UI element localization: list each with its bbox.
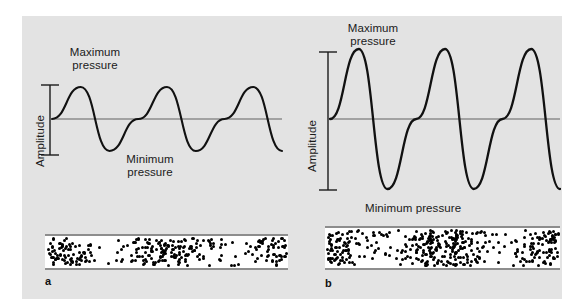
particle-dot <box>157 260 160 263</box>
particle-dot <box>264 237 267 240</box>
particle-dot <box>459 256 462 259</box>
particle-dot <box>531 237 534 240</box>
particle-dot <box>329 234 332 237</box>
particle-dot <box>386 235 389 238</box>
particle-dot <box>258 245 261 248</box>
particle-dot <box>545 239 548 242</box>
particle-dot <box>556 251 559 254</box>
particle-dot <box>552 230 555 233</box>
particle-dot <box>219 259 222 262</box>
particle-dot <box>449 253 452 256</box>
particle-dot <box>532 242 535 245</box>
particle-dot <box>281 245 284 248</box>
particle-dot <box>445 242 448 245</box>
panel-b-strip-bottom-rule <box>325 268 560 270</box>
particle-dot <box>150 247 153 250</box>
particle-dot <box>54 258 57 261</box>
particle-dot <box>208 264 211 267</box>
particle-dot <box>180 240 183 243</box>
particle-dot <box>443 255 446 258</box>
particle-dot <box>476 261 479 264</box>
particle-dot <box>144 251 147 254</box>
particle-dot <box>448 236 451 239</box>
particle-dot <box>265 259 268 262</box>
particle-dot <box>510 241 513 244</box>
particle-dot <box>389 246 392 249</box>
particle-dot <box>135 251 138 254</box>
particle-dot <box>396 249 399 252</box>
particle-dot <box>350 236 353 239</box>
particle-dot <box>503 245 506 248</box>
particle-dot <box>484 241 487 244</box>
particle-dot <box>150 257 153 260</box>
particle-dot <box>93 259 96 262</box>
particle-dot <box>551 235 554 238</box>
particle-dot <box>83 252 86 255</box>
particle-dot <box>162 253 165 256</box>
panel-b-amplitude-label: Amplitude <box>306 120 318 172</box>
particle-dot <box>515 240 518 243</box>
particle-dot <box>61 245 64 248</box>
particle-dot <box>366 239 369 242</box>
particle-dot <box>202 239 205 242</box>
particle-dot <box>411 262 414 265</box>
particle-dot <box>455 263 458 266</box>
particle-dot <box>537 242 540 245</box>
particle-dot <box>152 261 155 264</box>
particle-dot <box>415 251 418 254</box>
particle-dot <box>435 249 438 252</box>
particle-dot <box>556 255 559 258</box>
particle-dot <box>357 229 360 232</box>
particle-dot <box>445 245 448 248</box>
particle-dot <box>497 241 500 244</box>
particle-dot <box>557 233 560 236</box>
particle-dot <box>497 261 500 264</box>
particle-dot <box>404 235 407 238</box>
particle-dot <box>498 251 501 254</box>
particle-dot <box>190 247 193 250</box>
particle-dot <box>466 258 469 261</box>
particle-dot <box>455 251 458 254</box>
particle-dot <box>198 258 201 261</box>
particle-dot <box>90 254 93 257</box>
particle-dot <box>170 251 173 254</box>
particle-dot <box>186 264 189 267</box>
particle-dot <box>478 250 481 253</box>
particle-dot <box>421 254 424 257</box>
particle-dot <box>522 264 525 267</box>
particle-dot <box>450 229 453 232</box>
particle-dot <box>346 232 349 235</box>
particle-dot <box>454 258 457 261</box>
particle-dot <box>98 246 101 249</box>
particle-dot <box>155 248 158 251</box>
particle-dot <box>529 233 532 236</box>
particle-dot <box>430 246 433 249</box>
particle-dot <box>436 261 439 264</box>
particle-dot <box>120 248 123 251</box>
particle-dot <box>553 241 556 244</box>
particle-dot <box>399 263 402 266</box>
particle-dot <box>531 260 534 263</box>
particle-dot <box>284 244 287 247</box>
particle-dot <box>346 237 349 240</box>
particle-dot <box>488 240 491 243</box>
particle-dot <box>468 244 471 247</box>
particle-dot <box>267 254 270 257</box>
particle-dot <box>272 237 275 240</box>
particle-dot <box>220 254 223 257</box>
particle-dot <box>336 250 339 253</box>
particle-dot <box>351 261 354 264</box>
particle-dot <box>542 251 545 254</box>
particle-dot <box>78 263 81 266</box>
particle-dot <box>388 254 391 257</box>
particle-dot <box>388 231 391 234</box>
particle-dot <box>523 236 526 239</box>
particle-dot <box>75 260 78 263</box>
particle-dot <box>455 238 458 241</box>
particle-dot <box>455 229 458 232</box>
particle-dot <box>69 258 72 261</box>
particle-dot <box>266 250 269 253</box>
particle-dot <box>172 240 175 243</box>
particle-dot <box>249 245 252 248</box>
particle-dot <box>449 262 452 265</box>
